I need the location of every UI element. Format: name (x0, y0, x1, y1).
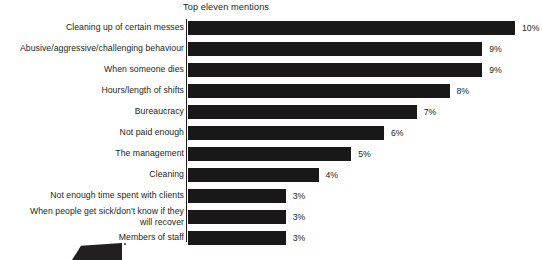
bar-row: Abusive/aggressive/challenging behaviour… (0, 40, 542, 61)
bar-row: Cleaning4% (0, 166, 542, 187)
bar (188, 105, 417, 119)
bar-row: When people get sick/don't know if theyw… (0, 208, 542, 229)
bar (188, 168, 319, 182)
bar-value-label: 8% (457, 86, 470, 96)
bar (188, 84, 450, 98)
bar-category-label: Abusive/aggressive/challenging behaviour (0, 43, 184, 53)
bar-row: Hours/length of shifts8% (0, 82, 542, 103)
bar-value-label: 6% (391, 128, 404, 138)
bar-row: When someone dies9% (0, 61, 542, 82)
bar-value-label: 9% (489, 65, 502, 75)
bar-category-label: Cleaning (0, 169, 184, 179)
bar-value-label: 4% (326, 170, 339, 180)
bar-value-label: 3% (293, 233, 306, 243)
scan-speck (124, 243, 126, 245)
bar-value-label: 5% (358, 149, 371, 159)
bar-value-label: 10% (522, 23, 539, 33)
bar-value-label: 3% (293, 191, 306, 201)
bar-row: Bureaucracy7% (0, 103, 542, 124)
bar-category-label: The management (0, 148, 184, 158)
bar (188, 231, 286, 245)
bar-value-label: 3% (293, 212, 306, 222)
bar-value-label: 7% (424, 107, 437, 117)
bar (188, 63, 483, 77)
bar-category-label: When someone dies (0, 64, 184, 74)
bar-category-label: Members of staff (0, 232, 184, 242)
bar-row: Not enough time spent with clients3% (0, 187, 542, 208)
bar (188, 210, 286, 224)
bar (188, 21, 516, 35)
bar (188, 147, 352, 161)
chart-title: Top eleven mentions (183, 1, 269, 13)
bar-row: The management5% (0, 145, 542, 166)
bar-row: Not paid enough6% (0, 124, 542, 145)
bar-category-label: Hours/length of shifts (0, 85, 184, 95)
bar-category-label: Not enough time spent with clients (0, 190, 184, 200)
bar-category-label: Not paid enough (0, 127, 184, 137)
bar-row: Cleaning up of certain messes10% (0, 19, 542, 40)
bar (188, 189, 286, 203)
bar-category-label: Bureaucracy (0, 106, 184, 116)
bar-category-label: When people get sick/don't know if theyw… (0, 206, 184, 226)
bar (188, 126, 385, 140)
bar-category-label: Cleaning up of certain messes (0, 22, 184, 32)
bar-value-label: 9% (489, 44, 502, 54)
bar (188, 42, 483, 56)
